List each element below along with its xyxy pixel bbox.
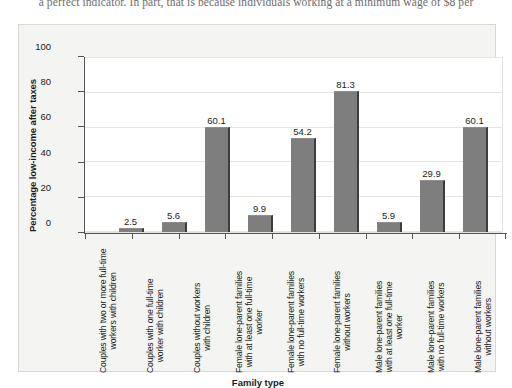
bar-slot: 9.9 <box>239 58 282 232</box>
x-axis-category-label: Couples with two or more full-timeworker… <box>85 241 132 373</box>
x-axis-title: Family type <box>19 377 497 388</box>
chart-figure: Percentage low-income after taxes 2.55.6… <box>18 24 496 372</box>
x-axis-category-label: Female lone-parent familieswith at least… <box>225 241 272 373</box>
x-axis-tick <box>85 233 132 239</box>
x-axis-category-label-text: Couples with one full-timeworker with ch… <box>145 279 165 374</box>
surrounding-body-text: a perfect indicator. In part, that is be… <box>0 0 512 12</box>
x-axis-category-label: Couples with one full-timeworker with ch… <box>132 241 179 373</box>
plot-wrapper: 2.55.660.19.954.281.35.929.960.1 0204060… <box>59 57 507 233</box>
bar-slot: 81.3 <box>325 58 368 232</box>
y-axis-tick-label: 40 <box>0 146 51 157</box>
x-axis-category-label: Couples without workerswith children <box>179 241 226 373</box>
y-axis-tick <box>78 162 84 163</box>
bar-value-label: 29.9 <box>422 168 441 179</box>
x-axis-category-label-text: Couples with two or more full-timeworker… <box>98 249 118 373</box>
x-axis-category-label: Male lone-parent familieswith at least o… <box>366 241 413 373</box>
y-axis-tick-label: 20 <box>0 181 51 192</box>
bar[interactable]: 5.9 <box>377 222 401 232</box>
x-axis-category-label-text: Couples without workerswith children <box>192 283 212 373</box>
x-axis-category-label: Female lone-parent familieswithout worke… <box>319 241 366 373</box>
x-axis-category-label-text: Female lone-parent familieswith at least… <box>234 271 264 373</box>
y-axis-tick-label: 0 <box>0 217 51 228</box>
bar-slot: 60.1 <box>454 58 497 232</box>
bar-value-label: 54.2 <box>293 126 312 137</box>
x-axis-category-label-text: Female lone-parent familieswithout worke… <box>332 271 352 373</box>
bar[interactable]: 60.1 <box>463 127 487 232</box>
bar[interactable]: 9.9 <box>248 215 272 232</box>
bar-slot: 54.2 <box>282 58 325 232</box>
y-axis-tick-label: 60 <box>0 111 51 122</box>
x-axis-tick <box>179 233 226 239</box>
bar-value-label: 2.5 <box>124 216 137 227</box>
x-axis-tick <box>132 233 179 239</box>
bars-layer: 2.55.660.19.954.281.35.929.960.1 <box>110 58 497 232</box>
bar-slot: 5.6 <box>153 58 196 232</box>
bar-value-label: 9.9 <box>253 203 266 214</box>
x-axis-tick <box>366 233 413 239</box>
x-axis-category-label-text: Male lone-parent familieswith no full-ti… <box>426 281 446 373</box>
bar-value-label: 5.9 <box>382 210 395 221</box>
bar-slot: 60.1 <box>196 58 239 232</box>
y-axis-tick <box>78 91 84 92</box>
bar-slot: 29.9 <box>411 58 454 232</box>
y-axis-tick <box>78 56 84 57</box>
bar[interactable]: 5.6 <box>162 222 186 232</box>
x-axis-category-label-text: Female lone-parent familieswith no full-… <box>286 271 306 373</box>
x-axis-category-label: Male lone-parent familieswithout workers <box>459 241 506 373</box>
x-axis-category-label-text: Male lone-parent familieswith at least o… <box>374 281 404 373</box>
bar-value-label: 5.6 <box>167 210 180 221</box>
x-axis-tick <box>272 233 319 239</box>
bar[interactable]: 29.9 <box>420 180 444 232</box>
y-axis-tick-label: 80 <box>0 76 51 87</box>
bar[interactable]: 2.5 <box>119 228 143 232</box>
y-axis-line <box>84 57 85 233</box>
x-axis-tick <box>459 233 506 239</box>
bar[interactable]: 60.1 <box>205 127 229 232</box>
bar-slot: 5.9 <box>368 58 411 232</box>
x-axis-category-label: Female lone-parent familieswith no full-… <box>272 241 319 373</box>
x-axis-category-label-text: Male lone-parent familieswithout workers <box>473 281 493 373</box>
x-axis-tick <box>319 233 366 239</box>
y-axis-tick-label: 100 <box>0 41 51 52</box>
bar-slot: 2.5 <box>110 58 153 232</box>
y-axis-tick <box>78 126 84 127</box>
x-axis-tick <box>412 233 459 239</box>
plot-area: 2.55.660.19.954.281.35.929.960.1 <box>84 57 503 233</box>
bar-value-label: 60.1 <box>465 115 484 126</box>
bar-value-label: 60.1 <box>207 115 226 126</box>
y-axis-tick <box>78 197 84 198</box>
x-axis-tick <box>225 233 272 239</box>
bar[interactable]: 81.3 <box>334 91 358 232</box>
x-axis-category-labels: Couples with two or more full-timeworker… <box>85 241 506 373</box>
bar[interactable]: 54.2 <box>291 138 315 232</box>
x-axis-category-label: Male lone-parent familieswith no full-ti… <box>412 241 459 373</box>
bar-value-label: 81.3 <box>336 79 355 90</box>
x-axis-ticks <box>85 233 506 239</box>
